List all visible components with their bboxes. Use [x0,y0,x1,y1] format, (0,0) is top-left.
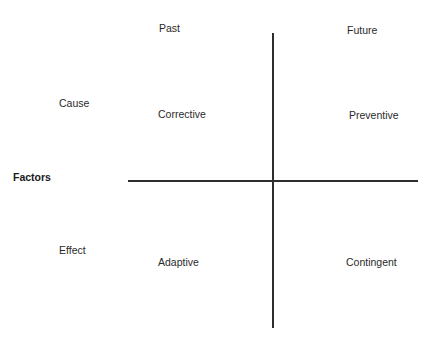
quadrant-adaptive: Adaptive [158,256,199,268]
vertical-axis-line [272,33,274,328]
quadrant-contingent: Contingent [346,256,397,268]
quadrant-preventive: Preventive [349,109,399,121]
column-header-future: Future [347,24,377,36]
row-header-cause: Cause [59,97,89,109]
row-header-effect: Effect [59,244,86,256]
column-header-past: Past [159,22,180,34]
factors-label: Factors [13,171,51,183]
quadrant-corrective: Corrective [158,108,206,120]
